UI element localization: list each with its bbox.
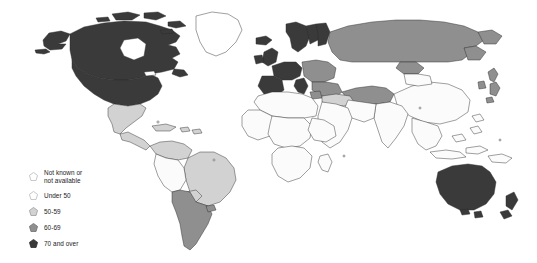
legend-label-50-59: 50-59 xyxy=(44,208,61,215)
legend-label-70-and-over: 70 and over xyxy=(44,240,78,247)
legend-swatch-under-50 xyxy=(29,191,38,200)
legend-swatch-60-69 xyxy=(29,223,38,232)
legend-item-70-and-over: 70 and over xyxy=(29,236,149,251)
legend-label-not-known: Not known or not available xyxy=(44,169,82,184)
legend-item-50-59: 50-59 xyxy=(29,204,149,219)
legend-item-under-50: Under 50 xyxy=(29,188,149,203)
world-map-figure: .l{stroke:#2b2b2b;stroke-width:.45;strok… xyxy=(0,0,537,263)
legend-item-not-known: Not known or not available xyxy=(29,166,149,187)
legend-swatch-70-and-over xyxy=(29,239,38,248)
legend-label-under-50: Under 50 xyxy=(44,192,71,199)
legend-swatch-50-59 xyxy=(29,207,38,216)
legend-item-60-69: 60-69 xyxy=(29,220,149,235)
legend-swatch-not-known xyxy=(29,172,38,181)
legend-label-60-69: 60-69 xyxy=(44,224,61,231)
map-legend: Not known or not available Under 50 50-5… xyxy=(29,166,149,251)
